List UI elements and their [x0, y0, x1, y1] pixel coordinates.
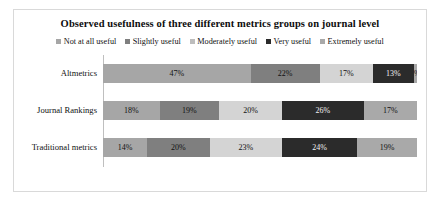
- legend-item-not-at-all-useful[interactable]: Not at all useful: [56, 37, 116, 46]
- bar-segment: 20%: [147, 138, 210, 157]
- legend-swatch-icon: [56, 39, 61, 44]
- legend-swatch-icon: [266, 39, 271, 44]
- bar-row: Traditional metrics 14%20%23%24%19%: [14, 135, 417, 159]
- bar-segment-value-label: 22%: [278, 69, 293, 78]
- bar-segment: 47%: [103, 64, 251, 83]
- bar-segment-value-label: 47%: [169, 69, 184, 78]
- legend-label: Very useful: [274, 37, 312, 46]
- bar-segment-value-label: 19%: [380, 143, 395, 152]
- bar-row: Journal Rankings 18%19%20%26%17%: [14, 98, 417, 122]
- bar-segment: 18%: [103, 101, 160, 120]
- bar-segment-value-label: 17%: [383, 106, 398, 115]
- bar-segment-value-label: 13%: [386, 69, 401, 78]
- bar-segment-value-label: 20%: [171, 143, 186, 152]
- bar-segment-value-label: 1%: [414, 69, 417, 78]
- plot-area: Altmetrics 47%22%17%13%1% Journal Rankin…: [14, 55, 426, 171]
- bar-segment: 22%: [251, 64, 320, 83]
- bar-segment: 14%: [103, 138, 147, 157]
- category-label-traditional-metrics: Traditional metrics: [14, 142, 102, 152]
- legend-item-extremely-useful[interactable]: Extremely useful: [320, 37, 384, 46]
- legend-item-very-useful[interactable]: Very useful: [266, 37, 311, 46]
- legend-label: Not at all useful: [64, 37, 117, 46]
- legend-label: Slightly useful: [133, 37, 181, 46]
- bar-segment-value-label: 18%: [124, 106, 139, 115]
- bar-segment: 13%: [373, 64, 414, 83]
- bar-segment: 19%: [357, 138, 417, 157]
- bar-segment-value-label: 24%: [312, 143, 327, 152]
- bar-segment-value-label: 20%: [243, 106, 258, 115]
- bar-segment: 1%: [414, 64, 417, 83]
- legend-swatch-icon: [125, 39, 130, 44]
- bar-segment-value-label: 23%: [239, 143, 254, 152]
- legend-item-moderately-useful[interactable]: Moderately useful: [190, 37, 257, 46]
- bar-segment: 23%: [210, 138, 282, 157]
- category-label-journal-rankings: Journal Rankings: [14, 105, 102, 115]
- bar-segment-value-label: 26%: [315, 106, 330, 115]
- bar-segment: 20%: [219, 101, 282, 120]
- chart-container: Observed usefulness of three different m…: [13, 9, 427, 192]
- chart-title: Observed usefulness of three different m…: [14, 10, 426, 30]
- bar-segment: 26%: [282, 101, 364, 120]
- bar-segment-value-label: 19%: [182, 106, 197, 115]
- legend-swatch-icon: [190, 39, 195, 44]
- chart-legend: Not at all useful Slightly useful Modera…: [14, 37, 426, 46]
- legend-label: Moderately useful: [197, 37, 257, 46]
- bar-segment-value-label: 17%: [339, 69, 354, 78]
- bar-row: Altmetrics 47%22%17%13%1%: [14, 61, 417, 85]
- stacked-bar-traditional-metrics: 14%20%23%24%19%: [103, 138, 417, 157]
- legend-swatch-icon: [320, 39, 325, 44]
- legend-item-slightly-useful[interactable]: Slightly useful: [125, 37, 181, 46]
- category-label-altmetrics: Altmetrics: [14, 68, 102, 78]
- bar-segment: 17%: [320, 64, 373, 83]
- legend-label: Extremely useful: [328, 37, 384, 46]
- stacked-bar-altmetrics: 47%22%17%13%1%: [103, 64, 417, 83]
- stacked-bar-journal-rankings: 18%19%20%26%17%: [103, 101, 417, 120]
- bar-segment-value-label: 14%: [118, 143, 133, 152]
- bar-segment: 17%: [364, 101, 417, 120]
- bar-segment: 19%: [160, 101, 220, 120]
- bar-segment: 24%: [282, 138, 357, 157]
